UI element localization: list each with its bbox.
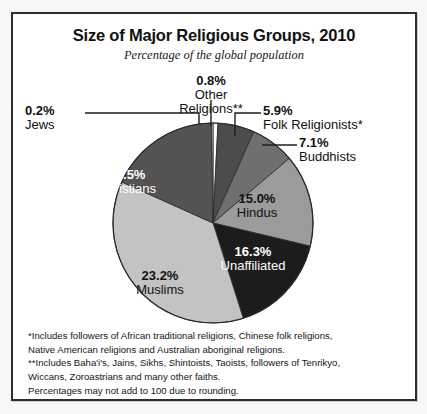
- footnote-line-1: *Includes followers of African tradition…: [28, 330, 403, 343]
- label-buddhists-name: Buddhists: [299, 150, 407, 164]
- label-other-religions: 0.8% Other Religions**: [163, 74, 259, 116]
- footnotes: *Includes followers of African tradition…: [28, 330, 403, 398]
- label-buddhists: 7.1% Buddhists: [299, 136, 407, 164]
- label-unaffiliated-name: Unaffiliated: [201, 259, 305, 273]
- label-muslims-name: Muslims: [114, 283, 206, 297]
- label-jews: 0.2% Jews: [25, 104, 87, 132]
- label-jews-name: Jews: [25, 118, 87, 132]
- label-christians-pct: 31.5%: [75, 168, 179, 182]
- label-unaffiliated-pct: 16.3%: [201, 245, 305, 259]
- label-other-religions-name: Other Religions**: [163, 88, 259, 116]
- label-muslims-pct: 23.2%: [114, 269, 206, 283]
- label-christians: 31.5% Christians: [75, 168, 179, 196]
- footnote-line-2: Native American religions and Australian…: [28, 344, 403, 357]
- footnote-line-5: Percentages may not add to 100 due to ro…: [28, 385, 403, 398]
- label-hindus-pct: 15.0%: [216, 192, 298, 206]
- label-hindus-name: Hindus: [216, 206, 298, 220]
- label-muslims: 23.2% Muslims: [114, 269, 206, 297]
- label-jews-pct: 0.2%: [25, 104, 87, 118]
- label-folk-religionists: 5.9% Folk Religionists*: [263, 104, 413, 132]
- label-other-religions-pct: 0.8%: [163, 74, 259, 88]
- label-buddhists-pct: 7.1%: [299, 136, 407, 150]
- label-folk-religionists-name: Folk Religionists*: [263, 118, 413, 132]
- figure-frame: Size of Major Religious Groups, 2010 Per…: [11, 12, 417, 401]
- footnote-line-4: Wiccans, Zoroastrians and many other fai…: [28, 371, 403, 384]
- page-title: Size of Major Religious Groups, 2010: [13, 26, 415, 45]
- footnote-line-3: **Includes Baha'i's, Jains, Sikhs, Shint…: [28, 357, 403, 370]
- label-folk-religionists-pct: 5.9%: [263, 104, 413, 118]
- label-unaffiliated: 16.3% Unaffiliated: [201, 245, 305, 273]
- label-christians-name: Christians: [75, 182, 179, 196]
- figure-subtitle: Percentage of the global population: [13, 48, 415, 63]
- label-hindus: 15.0% Hindus: [216, 192, 298, 220]
